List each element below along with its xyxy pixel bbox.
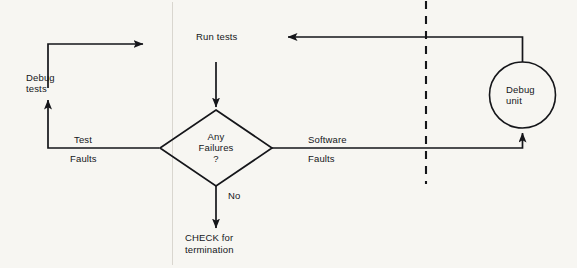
- node-run-tests-label: Run tests: [196, 31, 237, 43]
- node-check-termination-label-line1: CHECK for: [185, 232, 233, 244]
- edge-debug-unit-return-to-run-tests: [288, 37, 523, 62]
- node-debug-unit-label-line2: unit: [506, 95, 522, 107]
- node-debug-tests-label-line1: Debug: [26, 72, 55, 84]
- node-debug-unit-label-line1: Debug: [506, 84, 535, 96]
- edge-label-software-faults: Faults: [308, 153, 335, 165]
- node-any-failures-label-line2: Failures: [186, 142, 246, 153]
- node-debug-tests-label-line2: tests: [26, 83, 47, 95]
- edge-label-no: No: [228, 190, 240, 202]
- edge-label-software: Software: [308, 134, 347, 146]
- diagram-canvas: Run tests Debug tests Any Failures ? Deb…: [0, 0, 577, 268]
- edge-test-faults-to-debug-tests: [48, 100, 159, 148]
- edge-label-test: Test: [74, 134, 92, 146]
- node-any-failures-label-line3: ?: [186, 153, 246, 164]
- edge-debug-tests-return: [48, 44, 143, 88]
- node-any-failures-label-line1: Any: [186, 131, 246, 142]
- edge-label-test-faults: Faults: [70, 153, 97, 165]
- node-check-termination-label-line2: termination: [185, 244, 234, 256]
